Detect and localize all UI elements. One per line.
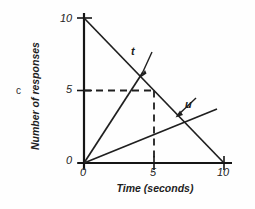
- curve-label-u: u: [185, 98, 192, 110]
- panel-letter: c: [16, 85, 21, 96]
- y-tick-label-10: 10: [60, 12, 72, 24]
- x-tick-label-0: 0: [80, 166, 86, 178]
- x-tick-label-5: 5: [150, 166, 156, 178]
- figure-panel: c 10 5 0 0 5 10 Number of responses Time…: [0, 0, 255, 209]
- y-axis-label: Number of responses: [29, 26, 41, 166]
- y-tick-label-0: 0: [66, 154, 72, 166]
- leader-line-t: [141, 52, 152, 76]
- curve-label-t: t: [131, 45, 135, 57]
- x-tick-label-10: 10: [217, 166, 229, 178]
- y-tick-label-5: 5: [66, 83, 72, 95]
- line-t: [84, 72, 143, 163]
- x-axis-label: Time (seconds): [84, 182, 226, 194]
